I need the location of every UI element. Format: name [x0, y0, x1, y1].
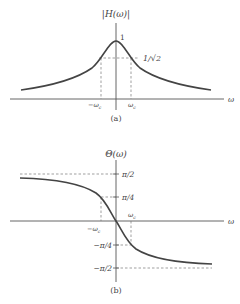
- b-pi2-label: π/2: [121, 170, 134, 179]
- b-caption: (b): [110, 286, 121, 295]
- a-one-label: 1: [120, 33, 125, 42]
- a-pos-wc-label: ωc: [128, 101, 136, 110]
- a-half-label: 1/√2: [143, 54, 161, 63]
- b-npi4-label: −π/4: [93, 241, 112, 250]
- b-y-label: Θ(ω): [105, 149, 127, 159]
- b-pi4-label: π/4: [121, 193, 134, 202]
- a-caption: (a): [110, 114, 121, 123]
- b-npi2-label: −π/2: [93, 264, 112, 273]
- a-x-label: ω: [228, 95, 234, 104]
- a-neg-wc-label: −ωc: [88, 101, 102, 110]
- plot-a-magnitude: |H(ω)| 1 1/√2 −ωc ωc ω (a): [10, 9, 234, 123]
- b-x-label: ω: [228, 217, 234, 226]
- plot-b-phase: Θ(ω) π/2 π/4 −π/4 −π/2 −ωc ωc ω (b): [10, 149, 234, 295]
- a-y-label: |H(ω)|: [102, 9, 130, 20]
- b-pos-wc-label: ωc: [128, 211, 136, 220]
- figure: |H(ω)| 1 1/√2 −ωc ωc ω (a) Θ(ω) π/2 π/4 …: [0, 0, 240, 304]
- b-neg-wc-label: −ωc: [87, 225, 101, 234]
